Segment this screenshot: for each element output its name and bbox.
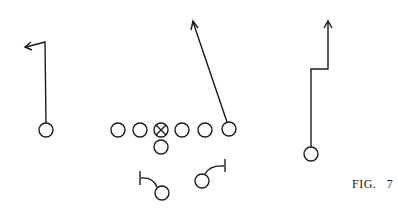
quarterback [154,140,168,154]
left-receiver [25,42,53,137]
tight-end [222,122,236,136]
play-diagram [0,0,398,218]
lineman [111,123,125,137]
left-back [140,171,169,200]
right-back [195,159,225,188]
figure-label: FIG. 7 [352,177,393,192]
offensive-line [111,122,236,137]
tight-end-route [193,22,227,122]
left-receiver-route [26,42,46,123]
lineman [198,123,212,137]
left-back-route [141,178,157,187]
lineman [133,123,147,137]
right-receiver [304,21,332,161]
right-receiver-route [311,21,328,147]
right-back-route [205,166,224,174]
center-marker [154,123,168,137]
lineman [175,123,189,137]
